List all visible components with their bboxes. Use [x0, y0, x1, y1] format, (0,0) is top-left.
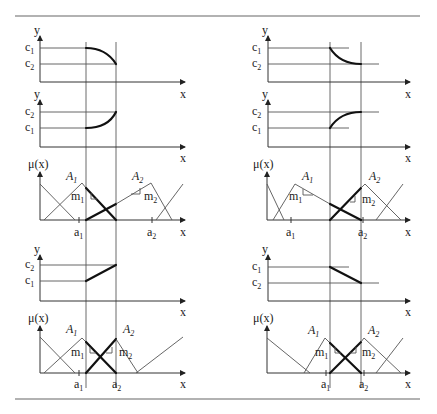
- svg-text:A2: A2: [368, 169, 380, 185]
- svg-text:a1: a1: [74, 377, 83, 393]
- svg-text:x: x: [405, 377, 411, 391]
- svg-text:c2: c2: [25, 257, 34, 273]
- curve-concave-down: [86, 48, 116, 64]
- svg-text:m2: m2: [119, 345, 132, 361]
- curve-convex-up: [86, 112, 116, 128]
- svg-text:A2: A2: [131, 169, 143, 185]
- svg-text:x: x: [405, 305, 411, 319]
- svg-text:c2: c2: [25, 56, 34, 72]
- curve-concave-up: [330, 112, 361, 128]
- svg-text:c2: c2: [25, 104, 34, 120]
- svg-text:c2: c2: [252, 275, 261, 291]
- svg-text:x: x: [180, 225, 186, 239]
- svg-text:x: x: [180, 377, 186, 391]
- svg-text:x: x: [405, 225, 411, 239]
- right-output-panel-3: y x c1 c2: [252, 242, 411, 319]
- svg-text:μ(x): μ(x): [253, 157, 273, 171]
- svg-text:A1: A1: [301, 169, 313, 185]
- svg-text:c2: c2: [252, 56, 261, 72]
- svg-text:x: x: [180, 87, 186, 101]
- right-column: y x c1 c2 y x c2 c1 μ(x) x: [252, 23, 411, 393]
- svg-text:y: y: [262, 242, 268, 256]
- svg-text:μ(x): μ(x): [28, 311, 48, 325]
- svg-text:y: y: [34, 87, 40, 101]
- line-increasing: [86, 265, 116, 281]
- svg-text:A1: A1: [307, 323, 319, 339]
- svg-text:c1: c1: [252, 259, 261, 275]
- left-output-panel-2: y x c2 c1: [25, 87, 186, 165]
- right-membership-panel-2: μ(x) x A1 A2 m1 m2 a1 a2: [253, 311, 411, 393]
- svg-text:y: y: [262, 23, 268, 37]
- right-output-panel-1: y x c1 c2: [252, 23, 411, 101]
- svg-text:c1: c1: [25, 40, 34, 56]
- left-membership-panel-2: μ(x) x A1 A2 m1 m2 a1 a2: [28, 311, 186, 393]
- svg-text:x: x: [180, 305, 186, 319]
- svg-text:m1: m1: [289, 189, 302, 205]
- svg-text:μ(x): μ(x): [253, 311, 273, 325]
- svg-text:a1: a1: [74, 225, 83, 241]
- svg-text:a2: a2: [112, 377, 121, 393]
- svg-text:A1: A1: [65, 322, 77, 338]
- svg-text:c2: c2: [252, 104, 261, 120]
- svg-text:x: x: [180, 151, 186, 165]
- right-output-panel-2: y x c2 c1: [252, 87, 411, 165]
- svg-text:m2: m2: [362, 192, 375, 208]
- svg-text:a2: a2: [147, 225, 156, 241]
- right-membership-panel-1: μ(x) x A1 A2 m1 m2 a1 a2: [253, 157, 411, 241]
- svg-text:a2: a2: [358, 225, 367, 241]
- svg-text:a1: a1: [321, 377, 330, 393]
- left-output-panel-1: y x c1 c2: [25, 23, 186, 101]
- svg-text:m1: m1: [71, 345, 84, 361]
- left-membership-panel-1: μ(x) x A1 A2 m1 m2 a1 a2: [28, 157, 186, 241]
- svg-text:A2: A2: [367, 323, 379, 339]
- svg-text:m1: m1: [315, 345, 328, 361]
- svg-text:A1: A1: [65, 169, 77, 185]
- svg-text:a1: a1: [286, 225, 295, 241]
- svg-text:x: x: [405, 151, 411, 165]
- svg-text:c1: c1: [252, 40, 261, 56]
- svg-text:c1: c1: [25, 273, 34, 289]
- line-decreasing: [330, 267, 361, 283]
- svg-text:c1: c1: [252, 120, 261, 136]
- svg-text:m1: m1: [71, 189, 84, 205]
- svg-text:A2: A2: [122, 322, 134, 338]
- svg-text:c1: c1: [25, 120, 34, 136]
- left-output-panel-3: y x c2 c1: [25, 242, 186, 319]
- svg-text:y: y: [34, 23, 40, 37]
- svg-text:a2: a2: [359, 377, 368, 393]
- curve-convex-down: [330, 48, 361, 64]
- svg-text:y: y: [262, 87, 268, 101]
- left-column: y x c1 c2 y x c2 c1 μ(x) x: [25, 23, 186, 393]
- svg-text:y: y: [34, 242, 40, 256]
- fuzzy-interpolation-figure: y x c1 c2 y x c2 c1 μ(x) x: [0, 0, 437, 414]
- svg-text:x: x: [405, 87, 411, 101]
- svg-text:μ(x): μ(x): [28, 157, 48, 171]
